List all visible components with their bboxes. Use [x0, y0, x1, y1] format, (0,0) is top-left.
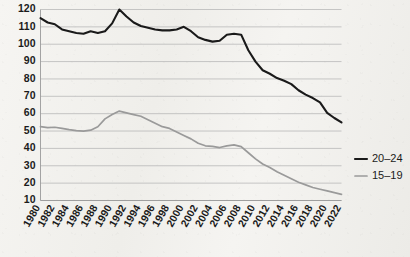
- y-tick-label: 100: [18, 37, 36, 49]
- data-series: [41, 10, 342, 195]
- x-axis-tick-labels: 1980198219841986198819901992199419961998…: [20, 202, 343, 228]
- y-tick-label: 120: [18, 2, 36, 14]
- y-tick-label: 30: [24, 159, 36, 171]
- legend-label: 15–19: [372, 169, 403, 181]
- y-axis-tick-labels: 102030405060708090100110120: [18, 2, 36, 205]
- y-tick-label: 20: [24, 176, 36, 188]
- chart-container: 102030405060708090100110120 198019821984…: [0, 0, 410, 257]
- line-chart: 102030405060708090100110120 198019821984…: [0, 0, 410, 257]
- axis-lines: [41, 10, 342, 201]
- y-tick-label: 60: [24, 106, 36, 118]
- y-tick-label: 50: [24, 124, 36, 136]
- y-tick-label: 90: [24, 54, 36, 66]
- y-tick-label: 40: [24, 141, 36, 153]
- y-tick-label: 10: [24, 193, 36, 205]
- y-tick-label: 70: [24, 89, 36, 101]
- gridlines: [41, 10, 342, 201]
- y-tick-label: 110: [19, 20, 36, 32]
- series-line: [41, 111, 342, 194]
- y-tick-label: 80: [24, 72, 36, 84]
- chart-legend: 20–2415–19: [355, 152, 403, 181]
- legend-label: 20–24: [372, 152, 403, 164]
- series-line: [41, 10, 342, 123]
